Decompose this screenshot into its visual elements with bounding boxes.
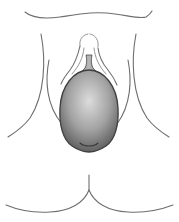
right-outer-flank-line [133, 34, 169, 137]
left-outer-flank-line [8, 34, 44, 137]
waist-line [25, 11, 152, 18]
left-lower-crease [6, 190, 89, 212]
upper-structure-left-arc [80, 34, 88, 46]
right-inner-thigh-line [117, 60, 130, 124]
upper-structure-right-arc [90, 34, 98, 47]
inner-right-fold [94, 48, 106, 74]
anatomical-illustration [0, 0, 179, 222]
swelling-mass [60, 70, 118, 152]
right-lower-crease [89, 190, 173, 212]
